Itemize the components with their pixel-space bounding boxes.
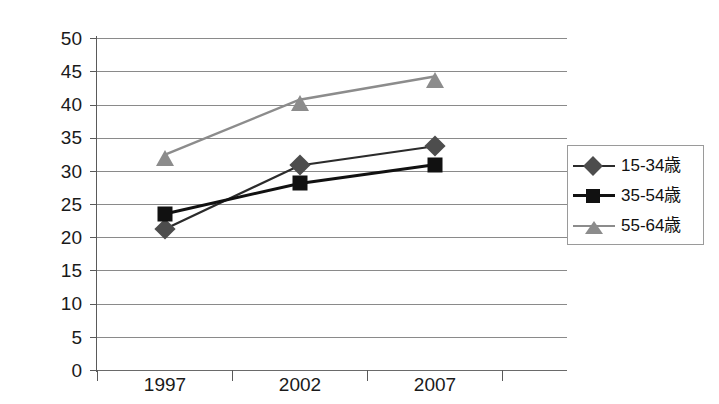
- legend-swatch-diamond: [573, 156, 615, 176]
- data-point-square: [157, 206, 172, 221]
- page-caption-clipped: [0, 396, 719, 404]
- y-axis-label-10: 10: [30, 294, 82, 313]
- legend-swatch-square: [573, 186, 615, 206]
- legend-item-35-54[interactable]: 35-54歳: [568, 181, 703, 211]
- y-axis-label-40: 40: [30, 95, 82, 114]
- plot-area: [97, 38, 567, 370]
- y-axis-tick: [90, 304, 97, 305]
- y-axis-tick: [90, 105, 97, 106]
- y-axis-label-45: 45: [30, 62, 82, 81]
- y-axis-tick: [90, 337, 97, 338]
- y-axis-tick: [90, 270, 97, 271]
- legend: 15-34歳 35-54歳 55-64歳: [567, 145, 704, 245]
- series-lines: [97, 38, 503, 370]
- y-axis-tick: [90, 370, 97, 371]
- y-axis-label-50: 50: [30, 29, 82, 48]
- y-axis-label-25: 25: [30, 195, 82, 214]
- x-axis-label-1997: 1997: [105, 374, 225, 396]
- legend-swatch-triangle: [573, 216, 615, 236]
- y-axis-tick: [90, 171, 97, 172]
- x-axis-tick: [502, 370, 503, 381]
- x-axis-label-2002: 2002: [240, 374, 360, 396]
- y-axis-label-30: 30: [30, 162, 82, 181]
- series-line-55-64: [165, 77, 435, 155]
- y-axis-tick: [90, 138, 97, 139]
- y-axis-label-20: 20: [30, 228, 82, 247]
- legend-label-35-54: 35-54歳: [615, 186, 681, 206]
- data-point-square: [427, 157, 442, 172]
- data-point-triangle: [426, 72, 444, 88]
- y-axis-tick: [90, 204, 97, 205]
- y-axis-label-0: 0: [30, 361, 82, 380]
- data-point-square: [292, 176, 307, 191]
- x-axis-label-2007: 2007: [375, 374, 495, 396]
- y-axis-label-35: 35: [30, 128, 82, 147]
- line-chart: 50 45 40 35 30 25 20 15 10 5 0: [0, 0, 719, 404]
- y-axis-label-15: 15: [30, 261, 82, 280]
- legend-item-15-34[interactable]: 15-34歳: [568, 151, 703, 181]
- data-point-triangle: [156, 150, 174, 166]
- legend-label-55-64: 55-64歳: [615, 216, 681, 236]
- y-axis-label-5: 5: [30, 328, 82, 347]
- legend-item-55-64[interactable]: 55-64歳: [568, 211, 703, 241]
- y-axis-tick: [90, 38, 97, 39]
- y-axis-tick: [90, 71, 97, 72]
- y-axis-tick: [90, 237, 97, 238]
- x-axis-tick: [97, 370, 98, 381]
- legend-label-15-34: 15-34歳: [615, 156, 681, 176]
- data-point-triangle: [291, 95, 309, 111]
- x-axis-tick: [232, 370, 233, 381]
- x-axis-tick: [367, 370, 368, 381]
